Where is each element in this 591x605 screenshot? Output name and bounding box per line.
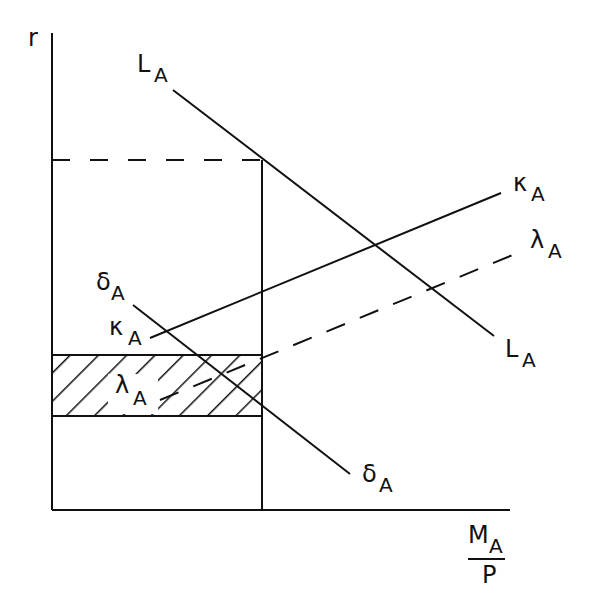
svg-text:κ: κ (513, 169, 527, 197)
label-L-top: L A (137, 50, 168, 87)
label-delta-bottom: δ A (362, 460, 393, 497)
svg-text:δ: δ (362, 460, 377, 488)
svg-text:λ: λ (115, 371, 129, 399)
svg-text:A: A (128, 326, 142, 350)
x-axis-label: M A P (468, 521, 505, 589)
curve-L (173, 90, 494, 336)
label-L-bottom: L A (505, 335, 536, 372)
svg-text:L: L (137, 50, 151, 78)
label-kappa-right: κ A (513, 169, 545, 206)
svg-text:A: A (522, 348, 536, 372)
label-delta-top: δ A (96, 268, 125, 305)
svg-text:A: A (154, 63, 168, 87)
svg-text:A: A (531, 182, 545, 206)
y-axis-label: r (28, 24, 38, 52)
curve-kappa (150, 193, 501, 338)
svg-text:P: P (482, 561, 496, 589)
svg-text:λ: λ (530, 226, 544, 254)
svg-text:A: A (548, 239, 562, 263)
svg-text:κ: κ (109, 313, 123, 341)
label-kappa-left: κ A (109, 313, 142, 350)
svg-text:M: M (468, 521, 489, 549)
label-lambda-right: λ A (530, 226, 562, 263)
shaded-region (52, 355, 262, 416)
svg-text:A: A (111, 281, 125, 305)
svg-text:A: A (379, 473, 393, 497)
svg-text:A: A (489, 534, 503, 558)
diagram-canvas: r L A κ A λ A L A δ A κ A λ A δ A M A (0, 0, 591, 605)
svg-text:δ: δ (96, 268, 111, 296)
svg-text:A: A (133, 386, 147, 410)
svg-text:L: L (505, 335, 519, 363)
